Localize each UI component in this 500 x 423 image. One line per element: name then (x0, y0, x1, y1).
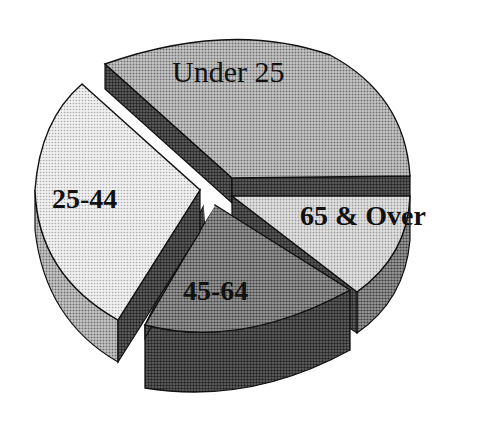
label-25-44: 25-44 (52, 183, 117, 214)
pie-chart-svg: Under 25 25-44 45-64 65 & Over (0, 0, 500, 423)
pie-chart: Under 25 25-44 45-64 65 & Over (0, 0, 500, 423)
label-under-25: Under 25 (172, 55, 284, 88)
label-45-64: 45-64 (183, 275, 248, 306)
label-65-over: 65 & Over (300, 200, 426, 231)
